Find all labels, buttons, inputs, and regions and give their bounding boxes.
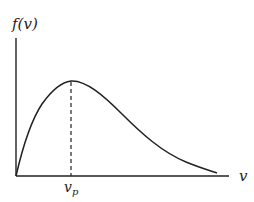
distribution-diagram: f(v) v vp [0,0,254,202]
x-axis-label: v [239,167,248,185]
peak-label: vp [64,179,79,197]
y-axis-label: f(v) [11,15,38,33]
distribution-curve [16,81,217,176]
